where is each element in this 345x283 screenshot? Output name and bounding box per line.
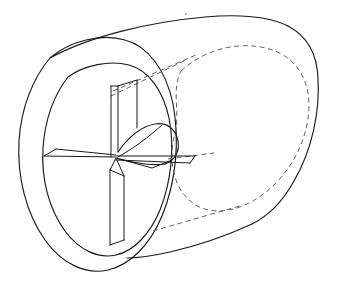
technical-drawing-svg xyxy=(0,0,345,283)
far-bore-circle xyxy=(172,46,309,211)
vane-lower-bottom-edge xyxy=(110,240,124,245)
vane-upper-vertical xyxy=(111,80,137,157)
figure-root: Hollow cylinder with internal radial van… xyxy=(0,0,345,283)
bore-tangent-top xyxy=(111,60,186,96)
shell-bottom-edge xyxy=(127,224,252,258)
scoop-outer-curve xyxy=(118,124,178,164)
front-face-inner-circle xyxy=(43,63,172,256)
vane-right-hub-fold xyxy=(116,158,172,168)
vane-left-outer-cap xyxy=(44,149,56,156)
vane-curved-scoop xyxy=(116,123,178,165)
vane-left-horizontal xyxy=(44,149,116,157)
far-rim-outer-arc xyxy=(252,26,318,224)
shell-top-edge xyxy=(50,16,288,58)
vane-left-lower-edge xyxy=(44,156,116,157)
hub-center-point xyxy=(114,155,117,158)
vane-right-horizontal xyxy=(116,156,195,168)
vane-lower-vertical xyxy=(110,158,124,245)
front-inner-circle-path xyxy=(43,63,172,256)
far-bore-dashed-path xyxy=(172,46,309,211)
bore-tangent-bottom xyxy=(153,205,243,231)
vane-lower-hub-left xyxy=(110,158,116,170)
dust-speck-icon xyxy=(185,13,187,15)
vane-right-outer-cap xyxy=(190,156,195,163)
vane-left-upper-edge xyxy=(56,149,116,155)
hub xyxy=(114,155,117,158)
